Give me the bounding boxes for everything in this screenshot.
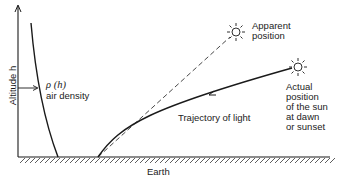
sun-icon-apparent	[227, 23, 245, 41]
ground-line	[18, 157, 335, 163]
earth-label: Earth	[147, 167, 170, 178]
trajectory-label: Trajectory of light	[178, 113, 251, 124]
sun-icon-actual	[289, 58, 307, 76]
apparent-line	[98, 37, 230, 157]
actual-label-5: or sunset	[286, 122, 325, 133]
density-symbol: ρ (h)	[46, 80, 66, 91]
y-axis-label: Altitude h	[7, 56, 18, 116]
density-label: air density	[46, 91, 89, 102]
apparent-label-2: position	[252, 31, 285, 42]
